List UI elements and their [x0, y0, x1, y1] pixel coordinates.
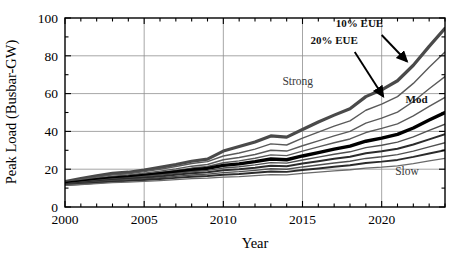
x-tick-label: 2010 [210, 212, 237, 227]
y-tick-label: 80 [45, 49, 59, 64]
figure-peak-load-chart: 20002005201020152020 020406080100 Strong… [0, 0, 461, 266]
annotation-slow: Slow [395, 165, 419, 177]
x-tick-label: 2020 [368, 212, 395, 227]
y-tick-label: 20 [45, 162, 59, 177]
y-axis-title: Peak Load (Busbar-GW) [3, 40, 20, 185]
y-tick-label: 100 [38, 11, 59, 26]
annotation-mod: Mod [406, 93, 428, 105]
y-tick-label: 0 [51, 200, 58, 215]
x-axis-title: Year [242, 235, 269, 251]
annotation-strong: Strong [282, 75, 313, 88]
y-tick-label: 60 [45, 86, 59, 101]
annotation-eue20: 20% EUE [310, 34, 357, 46]
x-tick-label: 2005 [131, 212, 158, 227]
chart-canvas: 20002005201020152020 020406080100 Strong… [0, 0, 461, 266]
x-tick-label: 2015 [289, 212, 316, 227]
y-tick-label: 40 [45, 124, 59, 139]
annotation-eue10: 10% EUE [336, 17, 383, 29]
